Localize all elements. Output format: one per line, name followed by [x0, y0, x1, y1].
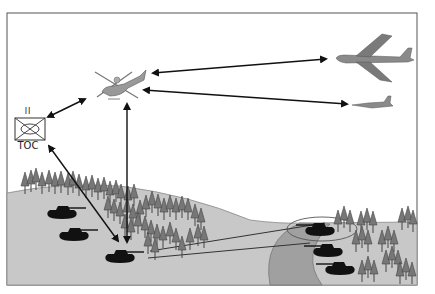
toc-unit-symbol	[15, 118, 45, 140]
toc-label: TOC	[13, 140, 43, 151]
battlefield-diagram	[0, 0, 435, 294]
toc-echelon-marker: II	[13, 107, 43, 116]
